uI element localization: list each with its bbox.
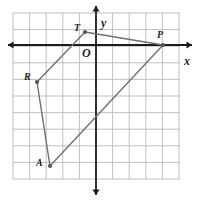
vertex-label-p: P <box>157 30 163 40</box>
vertex-label-r: R <box>24 72 31 82</box>
x-axis-arrow-left <box>8 41 14 48</box>
vertex-label-a: A <box>36 158 43 168</box>
vertex-dot-t <box>83 30 87 34</box>
vertex-dot-r <box>35 80 39 84</box>
vertex-dot-p <box>161 43 165 47</box>
x-axis-label: x <box>184 55 190 67</box>
vertex-dot-a <box>48 164 52 168</box>
y-axis-label: y <box>101 17 106 29</box>
figure-canvas: x y O T P A R <box>0 0 200 201</box>
vertex-label-t: T <box>74 23 80 33</box>
y-axis-arrow-down <box>92 190 99 196</box>
x-axis-arrow-right <box>187 41 193 48</box>
y-axis-arrow-up <box>92 6 99 12</box>
coordinate-plane-svg <box>0 0 200 201</box>
origin-label: O <box>82 47 91 59</box>
